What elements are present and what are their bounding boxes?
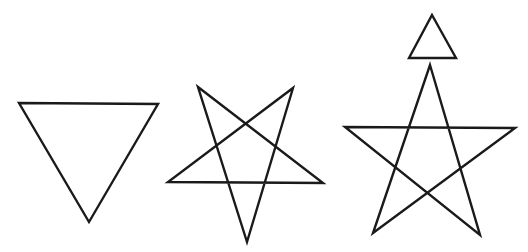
drawing-canvas xyxy=(0,0,528,252)
shapes-svg xyxy=(0,0,528,252)
